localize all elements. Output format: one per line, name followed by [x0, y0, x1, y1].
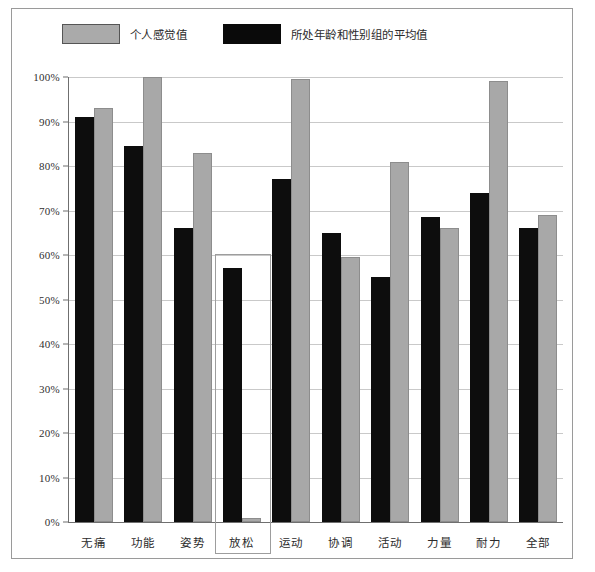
x-label-1: 功能 — [118, 523, 167, 557]
legend-swatch-personal-icon — [62, 24, 120, 44]
y-tick-label-50: 50% — [39, 294, 60, 306]
x-label-3: 放松 — [217, 523, 266, 557]
legend-item-personal: 个人感觉值 — [62, 24, 187, 44]
x-axis-labels: 无痛功能姿势放松运动协调活动力量耐力全部 — [69, 523, 563, 557]
bar-personal-8 — [489, 81, 508, 522]
x-label-7: 力量 — [415, 523, 464, 557]
y-tick-label-40: 40% — [39, 338, 60, 350]
legend-swatch-average-icon — [223, 24, 281, 44]
y-tick-mark-40 — [63, 344, 68, 345]
y-tick-mark-50 — [63, 299, 68, 300]
x-label-8: 耐力 — [464, 523, 513, 557]
y-tick-label-20: 20% — [39, 427, 60, 439]
bar-average-2 — [174, 228, 193, 522]
bar-personal-7 — [440, 228, 459, 522]
x-label-4: 运动 — [267, 523, 316, 557]
y-tick-mark-80 — [63, 166, 68, 167]
x-label-6: 活动 — [365, 523, 414, 557]
legend-item-average: 所处年龄和性别组的平均值 — [223, 24, 428, 44]
chart-legend: 个人感觉值 所处年龄和性别组的平均值 — [12, 17, 572, 51]
bar-average-9 — [519, 228, 538, 522]
bar-personal-4 — [291, 79, 310, 522]
y-tick-mark-0 — [63, 522, 68, 523]
y-tick-mark-70 — [63, 210, 68, 211]
bar-average-8 — [470, 193, 489, 522]
bar-group-3 — [217, 77, 266, 522]
y-tick-label-70: 70% — [39, 205, 60, 217]
bar-group-5 — [316, 77, 365, 522]
y-tick-label-100: 100% — [33, 71, 60, 83]
bar-average-5 — [322, 233, 341, 522]
plot-area: 0%10%20%30%40%50%60%70%80%90%100% — [69, 69, 563, 522]
bar-average-4 — [272, 179, 291, 522]
x-label-5: 协调 — [316, 523, 365, 557]
bar-average-3 — [223, 268, 242, 522]
y-tick-label-80: 80% — [39, 160, 60, 172]
bar-average-7 — [421, 217, 440, 522]
bar-average-0 — [75, 117, 94, 522]
bar-average-6 — [371, 277, 390, 522]
y-tick-mark-100 — [63, 77, 68, 78]
bar-group-4 — [267, 77, 316, 522]
y-tick-mark-30 — [63, 388, 68, 389]
bar-group-9 — [514, 77, 563, 522]
bar-group-2 — [168, 77, 217, 522]
bar-average-1 — [124, 146, 143, 522]
y-tick-mark-10 — [63, 477, 68, 478]
bar-personal-9 — [538, 215, 557, 522]
y-tick-mark-20 — [63, 433, 68, 434]
legend-label-personal: 个人感觉值 — [130, 26, 187, 42]
y-tick-label-90: 90% — [39, 116, 60, 128]
y-tick-mark-90 — [63, 121, 68, 122]
bar-personal-6 — [390, 162, 409, 522]
bar-group-6 — [365, 77, 414, 522]
chart-frame: 个人感觉值 所处年龄和性别组的平均值 0%10%20%30%40%50%60%7… — [11, 8, 573, 559]
bar-group-0 — [69, 77, 118, 522]
y-tick-label-10: 10% — [39, 472, 60, 484]
bar-personal-0 — [94, 108, 113, 522]
bar-personal-5 — [341, 257, 360, 522]
bar-personal-3 — [242, 518, 261, 522]
x-label-9: 全部 — [514, 523, 563, 557]
y-tick-label-0: 0% — [45, 516, 60, 528]
y-tick-label-30: 30% — [39, 383, 60, 395]
x-label-0: 无痛 — [69, 523, 118, 557]
bar-group-7 — [415, 77, 464, 522]
bar-group-1 — [118, 77, 167, 522]
bar-personal-2 — [193, 153, 212, 522]
bar-personal-1 — [143, 77, 162, 522]
y-tick-mark-60 — [63, 255, 68, 256]
y-tick-label-60: 60% — [39, 249, 60, 261]
legend-label-average: 所处年龄和性别组的平均值 — [291, 26, 428, 42]
bar-groups — [69, 77, 563, 522]
bar-group-8 — [464, 77, 513, 522]
x-label-2: 姿势 — [168, 523, 217, 557]
